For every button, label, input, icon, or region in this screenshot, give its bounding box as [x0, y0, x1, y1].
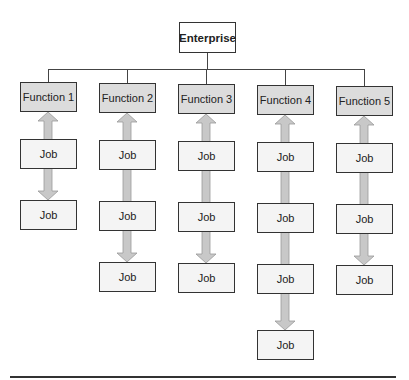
job-box: Job: [99, 201, 156, 231]
connector-vertical-root: [207, 53, 208, 69]
job-label: Job: [277, 151, 295, 163]
job-box: Job: [178, 263, 235, 293]
job-label: Job: [356, 213, 374, 225]
bottom-rule: [10, 376, 396, 378]
job-box: Job: [336, 143, 393, 173]
function-label: Function 1: [23, 91, 74, 103]
job-box: Job: [336, 265, 393, 295]
function-box-2: Function 2: [99, 83, 156, 113]
connector-vertical-function-4: [285, 69, 286, 85]
job-box: Job: [257, 330, 314, 360]
enterprise-label: Enterprise: [179, 32, 236, 44]
job-box: Job: [99, 262, 156, 292]
job-box: Job: [20, 139, 77, 169]
job-box: Job: [20, 200, 77, 230]
function-box-5: Function 5: [336, 86, 393, 116]
job-box: Job: [336, 204, 393, 234]
job-label: Job: [356, 274, 374, 286]
job-label: Job: [119, 271, 137, 283]
connector-vertical-function-2: [127, 69, 128, 83]
enterprise-box: Enterprise: [179, 22, 236, 53]
function-box-4: Function 4: [257, 85, 314, 115]
job-label: Job: [40, 148, 58, 160]
function-box-3: Function 3: [178, 84, 235, 114]
job-box: Job: [257, 264, 314, 294]
job-label: Job: [356, 152, 374, 164]
job-label: Job: [119, 149, 137, 161]
connector-vertical-function-3: [206, 69, 207, 84]
job-label: Job: [277, 339, 295, 351]
connector-vertical-function-1: [48, 69, 49, 82]
job-label: Job: [277, 273, 295, 285]
job-label: Job: [40, 209, 58, 221]
job-label: Job: [198, 272, 216, 284]
double-arrow-icon: [117, 113, 137, 262]
job-box: Job: [257, 203, 314, 233]
function-box-1: Function 1: [20, 82, 77, 112]
job-box: Job: [178, 202, 235, 232]
job-box: Job: [257, 142, 314, 172]
function-label: Function 4: [260, 94, 311, 106]
function-label: Function 3: [181, 93, 232, 105]
function-label: Function 5: [339, 95, 390, 107]
double-arrow-icon: [196, 114, 216, 263]
function-label: Function 2: [102, 92, 153, 104]
connector-vertical-function-5: [364, 69, 365, 86]
job-label: Job: [119, 210, 137, 222]
job-box: Job: [178, 141, 235, 171]
job-label: Job: [277, 212, 295, 224]
job-label: Job: [198, 150, 216, 162]
job-label: Job: [198, 211, 216, 223]
job-box: Job: [99, 140, 156, 170]
double-arrow-icon: [354, 116, 374, 265]
